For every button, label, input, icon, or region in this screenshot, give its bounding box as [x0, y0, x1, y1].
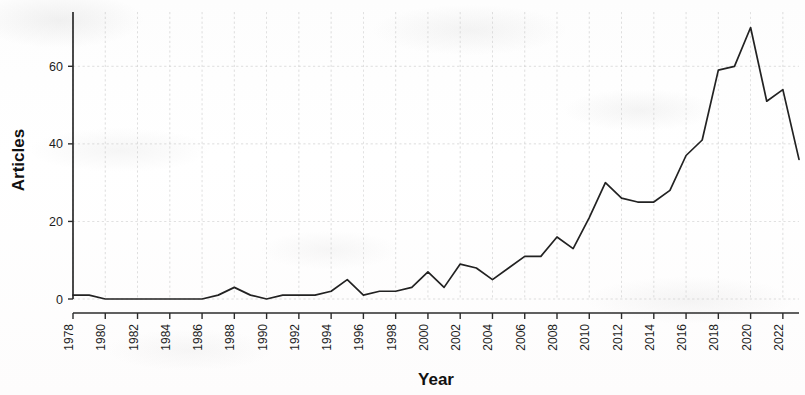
x-tick-label: 2014	[643, 324, 657, 351]
x-tick-label: 2016	[675, 324, 689, 351]
line-chart: 0204060 19781980198219841986198819901992…	[0, 0, 805, 395]
y-tick-label: 40	[49, 137, 63, 151]
x-tick-label: 1992	[288, 324, 302, 351]
x-axis-title: Year	[418, 370, 454, 389]
x-tick-label: 1996	[352, 324, 366, 351]
x-tick-label: 1998	[385, 324, 399, 351]
x-axis: 1978198019821984198619881990199219941996…	[62, 313, 799, 351]
y-axis-title: Articles	[9, 129, 28, 191]
y-axis: 0204060	[49, 12, 73, 307]
x-tick-label: 2002	[449, 324, 463, 351]
y-tick-label: 60	[49, 60, 63, 74]
x-tick-label: 2020	[740, 324, 754, 351]
x-tick-label: 2010	[578, 324, 592, 351]
y-tick-label: 0	[56, 293, 63, 307]
x-tick-label: 2000	[417, 324, 431, 351]
x-tick-label: 1978	[62, 324, 76, 351]
x-tick-label: 2012	[611, 324, 625, 351]
x-axis-ticks: 1978198019821984198619881990199219941996…	[62, 313, 786, 351]
x-tick-label: 2006	[514, 324, 528, 351]
x-tick-label: 1984	[159, 324, 173, 351]
x-tick-label: 2004	[481, 324, 495, 351]
x-tick-label: 2008	[546, 324, 560, 351]
y-tick-label: 20	[49, 215, 63, 229]
x-tick-label: 1988	[223, 324, 237, 351]
x-tick-label: 1982	[127, 324, 141, 351]
y-axis-ticks: 0204060	[49, 60, 73, 307]
grid-lines	[73, 12, 799, 299]
articles-data-line	[73, 28, 799, 299]
x-tick-label: 2022	[772, 324, 786, 351]
x-tick-label: 1980	[94, 324, 108, 351]
x-tick-label: 1990	[256, 324, 270, 351]
x-tick-label: 1986	[191, 324, 205, 351]
x-tick-label: 2018	[707, 324, 721, 351]
x-tick-label: 1994	[320, 324, 334, 351]
chart-canvas: 0204060 19781980198219841986198819901992…	[0, 0, 805, 395]
